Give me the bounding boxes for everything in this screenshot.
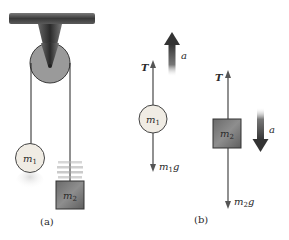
acceleration-down-arrow-icon — [253, 108, 269, 152]
atwood-machine-diagram: m1 m2 (a) T m1g m1 — [0, 0, 289, 240]
tension-label-1: T — [141, 62, 150, 73]
weight-arrowhead-1 — [150, 164, 156, 172]
mass2-fbd-label: m — [220, 128, 229, 139]
free-body-mass2: T m2g m2 a — [213, 70, 275, 209]
free-body-mass1: T m1g m1 a — [139, 32, 187, 174]
weight-label-1-m: m — [159, 161, 168, 172]
weight-label-2-g: g — [248, 196, 254, 207]
pulley-axle — [48, 64, 52, 68]
weight-label-2-m: m — [234, 196, 243, 207]
weight-label-1-g: g — [173, 161, 179, 172]
mass2-fbd-subscript: 2 — [229, 133, 233, 141]
accel-label-1: a — [181, 50, 187, 61]
panel-b: T m1g m1 a T m2g — [139, 32, 275, 225]
tension-label-2: T — [215, 72, 224, 83]
caption-a: (a) — [40, 216, 54, 227]
mass1-subscript: 1 — [32, 158, 36, 166]
panel-a: m1 m2 (a) — [9, 13, 95, 227]
mass1-fbd-subscript: 1 — [155, 119, 159, 127]
tension-arrowhead-1 — [150, 60, 156, 68]
mass2-label: m — [63, 190, 72, 201]
svg-text:m1g: m1g — [159, 161, 179, 174]
ceiling-bar — [9, 13, 95, 24]
mass1-fbd-label: m — [146, 114, 155, 125]
caption-b: (b) — [194, 214, 208, 225]
svg-text:m2g: m2g — [234, 196, 254, 209]
accel-label-2: a — [269, 124, 275, 135]
tension-arrowhead-2 — [225, 70, 231, 78]
mass1-motion-ghost — [16, 171, 44, 191]
mass2-subscript: 2 — [72, 195, 76, 203]
acceleration-up-arrow-icon — [164, 32, 180, 76]
mass1-label: m — [23, 153, 32, 164]
weight-arrowhead-2 — [225, 201, 231, 209]
